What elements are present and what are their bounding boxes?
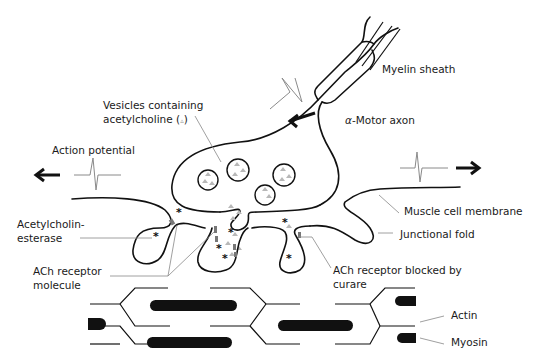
myofilaments: [88, 288, 416, 348]
label-actin: Actin: [451, 309, 477, 321]
label-ach-receptor-line1: ACh receptor: [33, 265, 102, 277]
svg-text:*: *: [286, 252, 292, 265]
action-potential-left: [36, 158, 121, 190]
label-ach-blocked-line2: curare: [333, 278, 367, 290]
label-muscle-membrane: Muscle cell membrane: [404, 205, 523, 217]
action-potential-axon: [270, 78, 315, 127]
label-ach-blocked-line1: ACh receptor blocked by: [333, 264, 462, 276]
actin-filaments: [90, 288, 415, 344]
label-motor-axon: α-Motor axon: [345, 114, 415, 126]
label-acetylcholinesterase-line1: Acetylcholin-: [17, 218, 85, 230]
svg-text:*: *: [228, 226, 234, 239]
acetylcholinesterase-markers: * * * * * * *: [153, 206, 292, 265]
label-acetylcholinesterase-line2: esterase: [17, 232, 62, 244]
label-junctional-fold: Junctional fold: [399, 228, 475, 240]
svg-text:*: *: [176, 206, 182, 219]
svg-text:*: *: [153, 230, 159, 243]
svg-text:*: *: [282, 216, 288, 229]
neuromuscular-junction-diagram: * * * * * * *: [0, 0, 545, 364]
action-potential-right: [400, 152, 479, 182]
label-action-potential: Action potential: [52, 144, 135, 156]
label-vesicles-line2: acetylcholine (▵): [103, 113, 188, 125]
label-vesicles-line1: Vesicles containing: [103, 99, 203, 111]
synaptic-vesicles: [198, 159, 295, 256]
svg-text:*: *: [222, 252, 228, 265]
label-myelin-sheath: Myelin sheath: [382, 63, 455, 75]
label-ach-receptor-line2: molecule: [33, 279, 81, 291]
label-myosin: Myosin: [451, 336, 488, 348]
